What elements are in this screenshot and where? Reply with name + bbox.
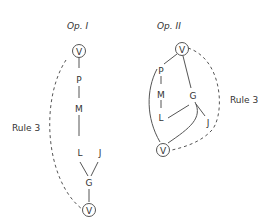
node-v-bottom-label: V — [160, 146, 167, 156]
op-i-title: Op. I — [67, 21, 89, 31]
node-l-label: L — [77, 148, 82, 158]
edge-v-p — [164, 54, 177, 64]
node-v-bottom-label: V — [86, 206, 93, 216]
node-g-label: G — [190, 91, 197, 101]
rule-3-label-right: Rule 3 — [230, 95, 258, 105]
edge-g-l — [168, 105, 189, 118]
node-m-label: M — [157, 90, 165, 100]
node-v-top-label: V — [179, 45, 186, 55]
op-ii-diagram: Op. II V P M L G J V Rule 3 — [149, 21, 258, 157]
rule-3-label-left: Rule 3 — [12, 123, 40, 133]
node-v-top-label: V — [76, 47, 83, 57]
edge-l-g — [80, 162, 88, 176]
op-i-diagram: Op. I V P M L J G V Rule 3 — [12, 21, 101, 217]
node-j-label: J — [206, 118, 210, 128]
edge-p-v-bottom — [149, 69, 160, 142]
node-p-label: P — [158, 66, 164, 76]
node-j-label: J — [98, 148, 102, 158]
edge-g-v-bottom — [168, 102, 197, 143]
node-l-label: L — [158, 113, 163, 123]
edge-v-g — [183, 56, 191, 88]
diagram-canvas: Op. I V P M L J G V Rule 3 Op. II — [0, 0, 266, 224]
op-ii-title: Op. II — [157, 21, 181, 31]
node-g-label: G — [86, 178, 93, 188]
edge-j-g — [91, 162, 98, 176]
node-p-label: P — [76, 75, 82, 85]
node-m-label: M — [75, 104, 83, 114]
